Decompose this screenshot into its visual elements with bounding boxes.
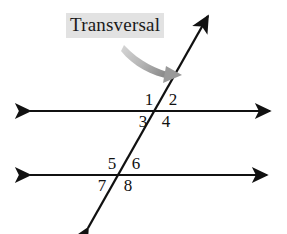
angle-label-6: 6 [128, 155, 144, 172]
angle-label-8: 8 [120, 177, 136, 194]
angle-label-5: 5 [104, 155, 120, 172]
angle-label-7: 7 [94, 177, 110, 194]
curved-pointer-arrow [121, 45, 182, 83]
angle-label-2: 2 [165, 91, 181, 108]
geometry-diagram: Transversal 1 2 3 4 5 6 7 8 [0, 0, 287, 234]
transversal-label: Transversal [66, 13, 164, 38]
angle-label-1: 1 [141, 91, 157, 108]
angle-label-3: 3 [135, 113, 151, 130]
angle-label-4: 4 [158, 113, 174, 130]
